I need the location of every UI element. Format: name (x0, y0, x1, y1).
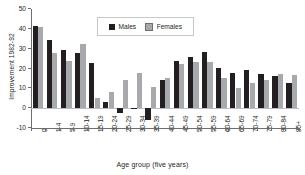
bar-females (66, 61, 71, 108)
legend-label-females: Females (157, 23, 182, 30)
bar-males (174, 61, 179, 108)
bar-group (244, 9, 258, 128)
bar-males (103, 102, 108, 109)
legend-item-males: Males (109, 23, 136, 30)
x-tick-mark (200, 128, 201, 131)
bar-group (286, 9, 300, 128)
bar-group (229, 9, 243, 128)
bar-females (80, 44, 85, 108)
bar-females (52, 53, 57, 108)
bar-males (230, 73, 235, 108)
bar-group (32, 9, 46, 128)
bar-females (292, 75, 297, 108)
x-tick-mark (130, 128, 131, 131)
x-tick-mark (243, 128, 244, 131)
x-tick-mark (158, 128, 159, 131)
x-tick-mark (172, 128, 173, 131)
bar-females (207, 62, 212, 108)
x-tick-mark (144, 128, 145, 131)
bar-females (38, 27, 43, 109)
bar-females (123, 80, 128, 108)
bar-males (202, 52, 207, 108)
y-tick-label: 0 (0, 103, 26, 112)
legend-swatch-females (145, 23, 153, 31)
bar-group (60, 9, 74, 128)
bar-females (151, 87, 156, 108)
bar-males (117, 108, 122, 112)
legend-item-females: Females (145, 23, 182, 31)
x-tick-mark (87, 128, 88, 131)
bar-females (221, 78, 226, 109)
x-tick-mark (59, 128, 60, 131)
bar-males (47, 40, 52, 108)
bar-group (272, 9, 286, 128)
chart-legend: Males Females (97, 17, 194, 36)
bar-males (61, 50, 66, 108)
x-tick-mark (45, 128, 46, 131)
bar-males (160, 80, 165, 108)
bar-males (216, 68, 221, 108)
bar-males (258, 74, 263, 108)
bar-group (74, 9, 88, 128)
x-tick-mark (228, 128, 229, 131)
x-tick-mark (116, 128, 117, 131)
bar-males (33, 26, 38, 108)
bar-females (264, 80, 269, 108)
bar-females (165, 78, 170, 109)
bar-females (179, 64, 184, 108)
legend-label-males: Males (119, 23, 137, 30)
x-tick-mark (271, 128, 272, 131)
bar-females (109, 92, 114, 108)
bar-group (215, 9, 229, 128)
bar-females (193, 62, 198, 108)
bar-females (95, 98, 100, 108)
bar-males (145, 108, 150, 120)
y-tick-mark (28, 87, 31, 88)
x-tick-mark (214, 128, 215, 131)
bar-chart: Improvement 1982-92 50403020100-10 01-45… (0, 0, 305, 175)
bar-males (89, 63, 94, 108)
bar-males (272, 76, 277, 108)
bar-females (236, 88, 241, 109)
bar-males (244, 70, 249, 108)
y-tick-label: -10 (0, 123, 26, 132)
y-tick-label: 20 (0, 64, 26, 73)
x-tick-mark (186, 128, 187, 131)
bar-group (258, 9, 272, 128)
bar-group (46, 9, 60, 128)
x-tick-mark (102, 128, 103, 131)
x-tick-mark (299, 128, 300, 131)
y-tick-label: 30 (0, 44, 26, 53)
bar-females (137, 73, 142, 108)
bar-males (75, 53, 80, 109)
legend-swatch-males (109, 24, 115, 30)
bar-males (131, 108, 136, 109)
x-tick-mark (31, 128, 32, 131)
y-tick-mark (28, 68, 31, 69)
bar-females (278, 74, 283, 108)
x-tick-mark (285, 128, 286, 131)
y-tick-label: 10 (0, 83, 26, 92)
x-axis-title: Age group (five years) (0, 161, 305, 168)
y-tick-label: 50 (0, 4, 26, 13)
x-tick-mark (257, 128, 258, 131)
y-tick-label: 40 (0, 24, 26, 33)
y-tick-mark (28, 28, 31, 29)
y-tick-mark (28, 8, 31, 9)
bar-group (201, 9, 215, 128)
bar-males (286, 83, 291, 109)
bar-females (250, 83, 255, 108)
x-tick-mark (73, 128, 74, 131)
y-tick-mark (28, 48, 31, 49)
bar-males (188, 57, 193, 109)
